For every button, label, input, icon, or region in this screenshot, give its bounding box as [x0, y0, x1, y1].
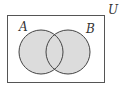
venn-diagram: A B U [0, 0, 119, 86]
set-a-label: A [18, 20, 28, 34]
shaded-union [19, 30, 90, 74]
universe-label: U [108, 3, 119, 17]
set-b-label: B [85, 22, 95, 36]
